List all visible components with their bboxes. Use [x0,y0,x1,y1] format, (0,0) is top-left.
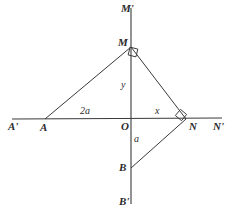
geometry-diagram: M' M O B B' A' A N N' 2a x y a [0,0,233,215]
segment-label-a: a [134,134,139,144]
point-label-N: N [189,121,197,132]
right-angle-at-N-icon [175,109,186,120]
right-angle-at-M-icon [128,47,138,57]
segment-NB [131,119,186,168]
point-label-M: M [118,37,128,48]
segment-label-y: y [121,80,125,90]
point-label-M-prime: M' [121,3,134,14]
point-label-A-prime: A' [8,121,18,132]
horizontal-axis-line [12,118,222,119]
point-label-A: A [40,122,47,133]
segment-label-x: x [155,106,159,116]
point-label-O: O [121,121,129,132]
point-label-N-prime: N' [213,121,224,132]
segment-label-2a: 2a [80,106,90,116]
point-label-B-prime: B' [119,196,129,207]
diagram-canvas [0,0,233,215]
point-label-B: B [119,162,126,173]
